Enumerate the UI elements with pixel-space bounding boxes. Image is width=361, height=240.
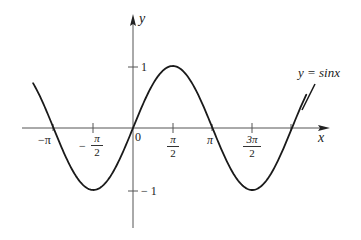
curve-label-leader: [302, 84, 315, 110]
y-axis-label: y: [139, 12, 145, 26]
y-tick-label-neg1: − 1: [141, 185, 157, 197]
sine-chart: [0, 0, 361, 240]
x-tick-label-neg-half-pi: − π 2: [91, 133, 103, 158]
curve-label: y = sinx: [298, 66, 340, 79]
y-tick-label-1: 1: [141, 61, 147, 73]
minus-sign: −: [79, 140, 86, 152]
x-axis-label: x: [318, 131, 324, 145]
x-tick-label-pi: π: [207, 134, 213, 146]
x-tick-label-neg-pi: −π: [38, 134, 51, 146]
origin-label: 0: [135, 131, 141, 143]
x-tick-label-three-half-pi: 3π 2: [243, 134, 261, 159]
x-tick-label-half-pi: π 2: [167, 134, 179, 159]
